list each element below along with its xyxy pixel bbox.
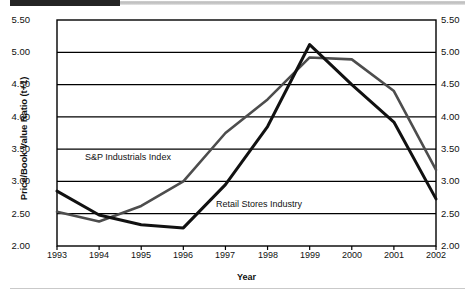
chart-figure: Price/Book Value Ratio (t+1) Year 5.50 5… bbox=[0, 0, 470, 293]
plot-frame bbox=[57, 20, 436, 246]
gridlines bbox=[57, 52, 436, 213]
series-label-sp-industrials: S&P Industrials Index bbox=[84, 152, 172, 162]
series-line-sp-industrials bbox=[57, 57, 436, 221]
series-label-retail-stores: Retail Stores Industry bbox=[215, 199, 303, 209]
plot-area bbox=[0, 0, 470, 293]
